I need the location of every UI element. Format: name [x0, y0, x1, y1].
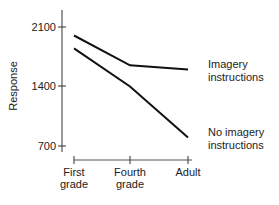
- legend-line: No imagery: [208, 126, 264, 139]
- legend-line: instructions: [208, 71, 264, 84]
- x-tick-label-line: Fourth: [105, 166, 155, 178]
- y-tick-label: 700: [20, 140, 56, 152]
- x-tick-label-line: Adult: [163, 166, 213, 178]
- legend-no-imagery: No imagery instructions: [208, 126, 264, 152]
- x-tick-label-adult: Adult: [163, 166, 213, 178]
- x-tick-label-line: First: [49, 166, 99, 178]
- y-axis-label: Response: [7, 51, 19, 121]
- x-tick-label-first: First grade: [49, 166, 99, 190]
- series-imagery-line: [74, 36, 188, 70]
- x-tick-label-fourth: Fourth grade: [105, 166, 155, 190]
- legend-imagery: Imagery instructions: [208, 58, 264, 84]
- y-tick-label: 2100: [20, 21, 56, 33]
- legend-line: Imagery: [208, 58, 264, 71]
- y-tick-label: 1400: [20, 80, 56, 92]
- x-tick-label-line: grade: [105, 178, 155, 190]
- legend-line: instructions: [208, 139, 264, 152]
- series-no-imagery-line: [74, 48, 188, 137]
- x-tick-label-line: grade: [49, 178, 99, 190]
